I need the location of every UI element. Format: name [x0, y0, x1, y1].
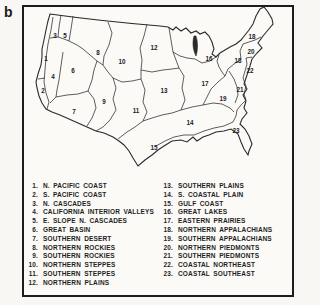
legend-entry-label: GULF COAST	[178, 200, 223, 207]
legend-row: 7.SOUTHERN DESERT	[27, 235, 159, 244]
legend-row: 12.NORTHERN PLAINS	[27, 279, 159, 288]
legend-entry-number: 17.	[162, 217, 173, 224]
legend-entry-number: 5.	[27, 217, 38, 224]
legend-entry-label: NORTHERN APPALACHIANS	[178, 226, 272, 233]
map-region-number: 9	[102, 99, 106, 105]
legend-entry-number: 16.	[162, 208, 173, 215]
legend-entry-label: COASTAL SOUTHEAST	[178, 270, 255, 277]
legend-entry-number: 12.	[27, 279, 38, 286]
legend-entry-number: 23.	[162, 270, 173, 277]
map-region-number: 18	[234, 58, 241, 64]
map-region-number: 13	[160, 88, 167, 94]
map-region-number: 16	[205, 56, 212, 62]
legend-row: 14.S. COASTAL PLAIN	[162, 191, 292, 200]
legend-entry-label: GREAT LAKES	[178, 208, 227, 215]
map-region-number: 15	[150, 145, 157, 151]
legend-col-left: 1.N. PACIFIC COAST2.S. PACIFIC COAST3.N.…	[27, 182, 159, 288]
map-region-number: 3	[53, 33, 57, 39]
legend-entry-number: 1.	[27, 182, 38, 189]
legend-entry-number: 20.	[162, 244, 173, 251]
legend-entry-label: E. SLOPE N. CASCADES	[43, 217, 127, 224]
legend-entry-number: 14.	[162, 191, 173, 198]
map-region-number: 17	[201, 81, 208, 87]
legend-row: 20.NORTHERN PIEDMONTS	[162, 244, 292, 253]
legend-entry-label: N. PACIFIC COAST	[43, 182, 107, 189]
legend-row: 10.NORTHERN STEPPES	[27, 261, 159, 270]
legend-entry-label: NORTHERN STEPPES	[43, 261, 116, 268]
legend-entry-number: 2.	[27, 191, 38, 198]
legend-row: 5.E. SLOPE N. CASCADES	[27, 217, 159, 226]
legend-row: 3.N. CASCADES	[27, 200, 159, 209]
map-region-number: 11	[133, 108, 140, 114]
map-region-number: 12	[150, 45, 157, 51]
map-region-number: 6	[71, 68, 75, 74]
legend-entry-label: SOUTHERN STEPPES	[43, 270, 115, 277]
legend-entry-label: SOUTHERN APPALACHIANS	[178, 235, 272, 242]
legend-entry-number: 7.	[27, 235, 38, 242]
legend-entry-label: SOUTHERN ROCKIES	[43, 252, 115, 259]
legend-entry-number: 6.	[27, 226, 38, 233]
legend-row: 1.N. PACIFIC COAST	[27, 182, 159, 191]
legend-row: 18.NORTHERN APPALACHIANS	[162, 226, 292, 235]
legend-entry-label: NORTHERN ROCKIES	[43, 244, 115, 251]
legend-entry-label: NORTHERN PIEDMONTS	[178, 244, 259, 251]
map-region-number: 2	[41, 88, 45, 94]
legend-entry-number: 21.	[162, 252, 173, 259]
legend-row: 22.COASTAL NORTHEAST	[162, 261, 292, 270]
map-region-number: 18	[248, 34, 255, 40]
legend-row: 8.NORTHERN ROCKIES	[27, 244, 159, 253]
map-region-number: 23	[232, 128, 239, 134]
legend-row: 4.CALIFORNIA INTERIOR VALLEYS	[27, 208, 159, 217]
map-region-number: 19	[219, 96, 226, 102]
legend-entry-label: COASTAL NORTHEAST	[178, 261, 255, 268]
map-region-number: 5	[63, 33, 67, 39]
legend-row: 17.EASTERN PRAIRIES	[162, 217, 292, 226]
legend-col-right: 13.SOUTHERN PLAINS14.S. COASTAL PLAIN15.…	[162, 182, 292, 279]
legend-entry-label: SOUTHERN PLAINS	[178, 182, 244, 189]
legend-entry-number: 22.	[162, 261, 173, 268]
legend-entry-label: CALIFORNIA INTERIOR VALLEYS	[43, 208, 154, 215]
legend-row: 13.SOUTHERN PLAINS	[162, 182, 292, 191]
legend-row: 9.SOUTHERN ROCKIES	[27, 252, 159, 261]
legend-entry-number: 10.	[27, 261, 38, 268]
legend-entry-label: NORTHERN PLAINS	[43, 279, 109, 286]
map-region-number: 10	[118, 59, 125, 65]
legend-row: 2.S. PACIFIC COAST	[27, 191, 159, 200]
legend-row: 6.GREAT BASIN	[27, 226, 159, 235]
legend-entry-label: SOUTHERN DESERT	[43, 235, 111, 242]
legend-row: 16.GREAT LAKES	[162, 208, 292, 217]
legend-row: 19.SOUTHERN APPALACHIANS	[162, 235, 292, 244]
legend-entry-number: 13.	[162, 182, 173, 189]
map-region-number: 20	[247, 49, 254, 55]
map-region-number: 7	[72, 109, 76, 115]
legend-entry-label: S. PACIFIC COAST	[43, 191, 106, 198]
legend-entry-label: EASTERN PRAIRIES	[178, 217, 245, 224]
legend-entry-label: SOUTHERN PIEDMONTS	[178, 252, 259, 259]
legend-row: 11.SOUTHERN STEPPES	[27, 270, 159, 279]
legend-row: 21.SOUTHERN PIEDMONTS	[162, 252, 292, 261]
legend-entry-number: 19.	[162, 235, 173, 242]
map-region-number: 14	[186, 120, 193, 126]
legend-row: 15.GULF COAST	[162, 200, 292, 209]
map-region-number: 1	[44, 56, 48, 62]
legend-entry-number: 8.	[27, 244, 38, 251]
legend-entry-number: 9.	[27, 252, 38, 259]
legend-entry-number: 11.	[27, 270, 38, 277]
legend-entry-number: 18.	[162, 226, 173, 233]
legend-entry-number: 15.	[162, 200, 173, 207]
map-region-number: 4	[51, 74, 55, 80]
legend-entry-label: GREAT BASIN	[43, 226, 90, 233]
legend-entry-label: S. COASTAL PLAIN	[178, 191, 243, 198]
map-region-number: 21	[236, 87, 243, 93]
legend-entry-number: 3.	[27, 200, 38, 207]
legend-row: 23.COASTAL SOUTHEAST	[162, 270, 292, 279]
legend-entry-label: N. CASCADES	[43, 200, 91, 207]
map-region-number: 22	[246, 68, 253, 74]
legend-entry-number: 4.	[27, 208, 38, 215]
map-region-number: 8	[96, 50, 100, 56]
